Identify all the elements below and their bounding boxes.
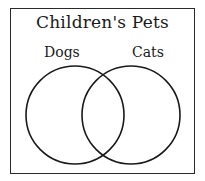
venn-circles: [0, 0, 205, 181]
cats-circle: [82, 66, 180, 164]
dogs-circle: [26, 66, 124, 164]
